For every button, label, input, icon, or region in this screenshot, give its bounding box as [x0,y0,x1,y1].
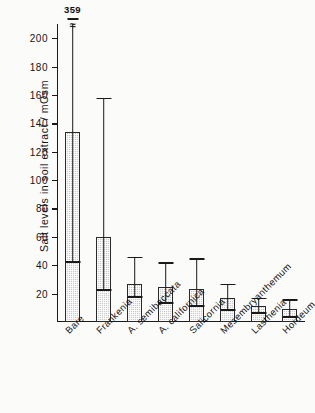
y-axis-tick: 120 [52,152,57,153]
y-axis-tick: 80 [52,208,57,209]
error-bar-stem [227,284,229,310]
y-axis-tick: 160 [52,95,57,96]
error-bar-cap-lower [96,289,111,291]
y-axis-tick-label: 100 [30,175,48,186]
y-axis-tick: 140 [52,123,57,124]
y-axis-tick-label: 180 [30,61,48,72]
y-axis-tick: 20 [52,294,57,295]
y-axis-tick: 200 [52,38,57,39]
error-bar-cap-upper [158,262,173,264]
error-bar-cap-upper [96,98,111,100]
y-axis-tick: 100 [52,180,57,181]
error-bar-stem [103,98,105,290]
y-axis-tick-label: 200 [30,33,48,44]
y-axis-line [57,24,58,322]
y-axis-tick-label: 160 [30,89,48,100]
y-axis-tick-label: 40 [36,260,48,271]
y-axis-tick-label: 60 [36,231,48,242]
y-axis-tick: 60 [52,237,57,238]
y-axis-tick-label: 20 [36,288,48,299]
chart-figure: Salt levels in soil extract / mOsm 20406… [0,0,315,413]
y-axis-tick-label: 80 [36,203,48,214]
error-bar-cap-lower [220,309,235,311]
y-axis-tick-label: 140 [30,118,48,129]
truncated-value-label: 359 [64,4,81,15]
y-axis-tick-label: 120 [30,146,48,157]
error-bar-cap-lower [65,261,80,263]
y-axis-title: Salt levels in soil extract / mOsm [38,36,50,296]
y-axis-tick: 40 [52,265,57,266]
error-bar-stem [289,299,291,316]
error-bar-stem [134,257,136,297]
error-bar-stem [72,24,74,261]
error-bar-cap-upper [189,258,204,260]
axis-break-icon: ≈ [69,20,75,31]
error-bar-cap-upper [127,257,142,259]
x-axis-category-labels: BareFrankeniaA. semibaccataA. californic… [57,326,305,413]
plot-area: 20406080100120140160180200 ≈359 BareFran… [57,24,305,322]
y-axis-tick: 180 [52,67,57,68]
error-bar-cap-upper [220,284,235,286]
